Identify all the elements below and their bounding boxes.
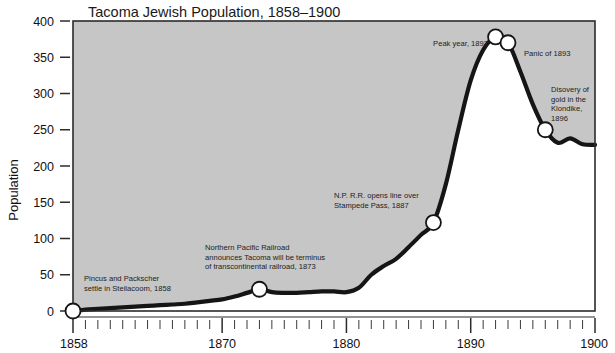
annotation-stampede-pass-1887: N.P. R.R. opens line overStampede Pass, … [334, 191, 419, 210]
x-axis-minor-ticks [85, 320, 582, 329]
marker-panic-1893 [501, 35, 516, 50]
annotation-steilacoom-1858-line-1: Pincus and Packscher [84, 274, 160, 283]
x-tick-label-1880: 1880 [333, 337, 361, 351]
annotation-panic-1893: Panic of 1893 [524, 49, 570, 58]
x-axis-tick-labels: 18581870188018901900 [60, 337, 608, 351]
annotation-klondike-1896-line-1: Disovery of [551, 85, 590, 94]
y-tick-label-150: 150 [33, 196, 54, 210]
y-tick-label-100: 100 [33, 232, 54, 246]
x-tick-label-1900: 1900 [580, 337, 608, 351]
marker-start-1858 [66, 304, 81, 319]
annotation-northern-pacific-1873-line-1: Northern Pacific Railroad [205, 243, 289, 252]
annotation-panic-1893-line-1: Panic of 1893 [524, 49, 570, 58]
marker-klondike-1896 [538, 122, 553, 137]
annotation-peak-year-1892-line-1: Peak year, 1892 [433, 39, 488, 48]
y-axis-title: Population [6, 159, 21, 220]
annotation-northern-pacific-1873-line-2: announces Tacoma will be terminus [205, 253, 325, 262]
annotation-stampede-pass-1887-line-2: Stampede Pass, 1887 [334, 201, 409, 210]
x-tick-label-1870: 1870 [208, 337, 236, 351]
annotation-klondike-1896-line-2: gold in the [551, 95, 586, 104]
annotation-klondike-1896-line-3: Klondike, [551, 104, 582, 113]
chart-container: 050100150200250300350400 185818701880189… [0, 0, 615, 353]
x-tick-label-1858: 1858 [60, 337, 88, 351]
annotation-steilacoom-1858-line-2: settle in Steilacoom, 1858 [84, 284, 171, 293]
annotation-peak-year-1892: Peak year, 1892 [433, 39, 488, 48]
x-tick-label-1890: 1890 [457, 337, 485, 351]
annotation-steilacoom-1858: Pincus and Packschersettle in Steilacoom… [84, 274, 171, 293]
y-axis-tick-labels: 050100150200250300350400 [33, 15, 54, 319]
chart-title: Tacoma Jewish Population, 1858–1900 [88, 4, 340, 20]
y-axis-ticks [60, 21, 70, 311]
y-tick-label-350: 350 [33, 51, 54, 65]
y-tick-label-0: 0 [47, 305, 54, 319]
y-tick-label-400: 400 [33, 15, 54, 29]
marker-stampede-pass-1887 [426, 215, 441, 230]
population-chart: 050100150200250300350400 185818701880189… [0, 0, 615, 353]
y-tick-label-50: 50 [40, 268, 54, 282]
annotation-stampede-pass-1887-line-1: N.P. R.R. opens line over [334, 191, 419, 200]
marker-railroad-terminus-1873 [252, 282, 267, 297]
y-tick-label-200: 200 [33, 160, 54, 174]
annotation-northern-pacific-1873-line-3: of transcontinental railroad, 1873 [205, 262, 316, 271]
y-tick-label-250: 250 [33, 123, 54, 137]
annotation-klondike-1896-line-4: 1896 [551, 114, 568, 123]
y-tick-label-300: 300 [33, 87, 54, 101]
